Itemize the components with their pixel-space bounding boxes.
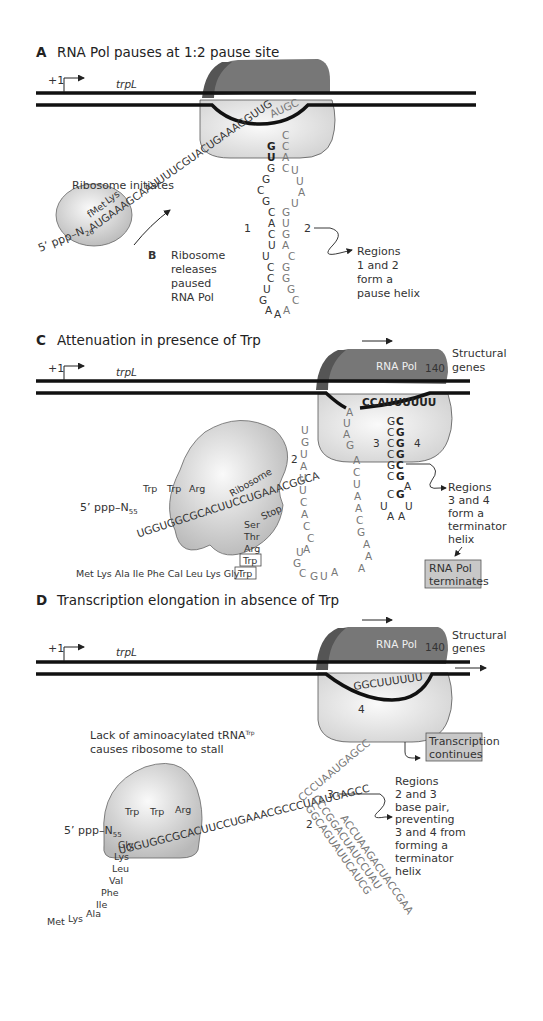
svg-text:U: U <box>300 448 308 460</box>
svg-text:U: U <box>301 424 309 436</box>
svg-text:Gly: Gly <box>118 839 134 850</box>
rna-pol-label: RNA Pol <box>376 360 417 372</box>
svg-text:A: A <box>300 460 308 472</box>
svg-text:G: G <box>357 526 365 538</box>
region-2-label: 2 <box>291 453 298 465</box>
codon-arg: Arg <box>189 483 205 494</box>
position-label: 140 <box>425 641 445 653</box>
panel-c: C Attenuation in presence of Trp RNA Pol… <box>36 332 510 588</box>
ribosome-move-arrow-icon <box>134 210 170 245</box>
panel-letter: A <box>36 44 47 60</box>
svg-text:U: U <box>299 472 307 484</box>
panel-title: RNA Pol pauses at 1:2 pause site <box>57 44 279 60</box>
region-2-label: 2 <box>306 818 313 830</box>
region-2-label: 2 <box>304 222 311 235</box>
gene-label: trpL <box>116 366 137 378</box>
codon-trp: Trp <box>124 806 139 817</box>
svg-text:A: A <box>354 490 362 502</box>
transcript-5prime: 5’ ppp–N55 <box>80 501 138 516</box>
region-4-label: 4 <box>358 703 365 715</box>
svg-text:A: A <box>404 480 412 492</box>
svg-text:C: C <box>282 162 289 174</box>
structural-genes-label: Structural genes <box>452 629 510 655</box>
pol-sequence: CCAUUUUUU <box>362 396 436 408</box>
svg-text:C: C <box>300 496 307 508</box>
position-label: 140 <box>425 362 445 374</box>
panel-b-letter: B <box>148 249 156 262</box>
panel-letter: D <box>36 592 47 608</box>
note-arrow-icon <box>314 228 352 254</box>
panel-title: Attenuation in presence of Trp <box>57 332 261 348</box>
structural-genes-label: Structural genes <box>452 347 510 374</box>
svg-text:Lys: Lys <box>68 913 83 924</box>
codon-arg: Arg <box>175 804 191 815</box>
svg-text:A: A <box>331 566 339 578</box>
svg-text:C: C <box>303 520 310 532</box>
svg-text:A: A <box>358 562 366 574</box>
plus-one-label: +1 <box>48 362 64 375</box>
codon-trp: Trp <box>166 483 181 494</box>
region-1-label: 1 <box>244 222 251 235</box>
svg-text:G: G <box>301 436 309 448</box>
svg-text:Lys: Lys <box>114 851 129 862</box>
peptide-line: Met Lys Ala Ile Phe Cal Leu Lys Gly <box>76 568 240 579</box>
region-3-label: 3 <box>327 788 334 800</box>
peptide-ser: Ser <box>244 519 260 530</box>
plus-one-label: +1 <box>48 642 64 655</box>
svg-text:C: C <box>356 514 363 526</box>
svg-text:A: A <box>355 502 363 514</box>
codon-trp: Trp <box>149 806 164 817</box>
panel-letter: C <box>36 332 46 348</box>
svg-text:U: U <box>299 484 307 496</box>
svg-text:C: C <box>353 466 360 478</box>
peptide-thr: Thr <box>243 531 260 542</box>
plus-one-label: +1 <box>48 74 64 87</box>
svg-text:G: G <box>346 439 354 451</box>
svg-text:G: G <box>310 570 318 582</box>
svg-text:Phe: Phe <box>101 887 119 898</box>
region-4-label: 4 <box>414 437 421 449</box>
svg-text:A: A <box>303 543 311 555</box>
trp-label: Trp <box>237 568 252 579</box>
svg-text:A: A <box>301 508 309 520</box>
region-3-label: 3 <box>373 437 380 449</box>
note-arrow-icon <box>406 464 446 488</box>
stall-note: Lack of aminoacylated tRNATrp causes rib… <box>90 725 258 756</box>
panel-title: Transcription elongation in absence of T… <box>56 592 339 608</box>
gene-label: trpL <box>116 78 137 90</box>
rna-pol-label: RNA Pol <box>376 638 417 650</box>
result-arrow-icon <box>405 742 420 758</box>
trp-label: Trp <box>242 555 257 566</box>
antiterminator-note: Regions 2 and 3 base pair, preventing 3 … <box>395 775 469 878</box>
svg-text:C: C <box>387 488 394 500</box>
svg-text:C: C <box>292 294 299 306</box>
svg-text:A: A <box>265 304 273 316</box>
svg-text:U: U <box>353 478 361 490</box>
panel-b-text: Ribosome releases paused RNA Pol <box>171 249 229 304</box>
attenuation-diagram: A RNA Pol pauses at 1:2 pause site +1 tr… <box>0 0 543 1021</box>
svg-text:U: U <box>291 197 299 209</box>
svg-text:Val: Val <box>109 875 123 886</box>
svg-text:CCCGGACUAUCCUAU: CCCGGACUAUCCUAU <box>310 792 384 891</box>
svg-text:A: A <box>353 454 361 466</box>
svg-text:Met: Met <box>47 916 65 927</box>
promoter-arrow-icon <box>64 78 84 92</box>
svg-text:A: A <box>363 538 371 550</box>
result-arrow-icon <box>455 547 462 556</box>
gene-label: trpL <box>116 646 137 658</box>
pause-helix-note: Regions 1 and 2 form a pause helix <box>357 245 421 300</box>
svg-text:Leu: Leu <box>112 863 129 874</box>
promoter-arrow-icon <box>64 366 84 380</box>
mrna-sequence: AUGAAAGCAAUUUUCGUACUGAAAGGUUG <box>86 97 274 234</box>
codon-trp: Trp <box>142 483 157 494</box>
promoter-arrow-icon <box>64 647 84 661</box>
svg-text:U: U <box>320 570 328 582</box>
svg-text:Ala: Ala <box>86 908 101 919</box>
peptide-arg: Arg <box>244 543 260 554</box>
terminator-note: Regions 3 and 4 form a terminator helix <box>448 481 510 546</box>
svg-text:A: A <box>365 550 373 562</box>
svg-text:C: C <box>299 567 306 579</box>
svg-text:A: A <box>398 510 406 522</box>
svg-text:A: A <box>283 304 291 316</box>
panel-d: D Transcription elongation in absence of… <box>36 592 510 927</box>
